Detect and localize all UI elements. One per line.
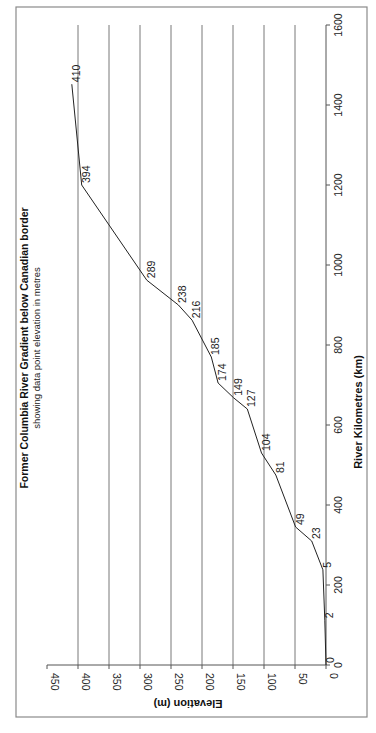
y-tick-label: 300 bbox=[142, 673, 154, 691]
chart: 050100150200250300350400450 020040060080… bbox=[0, 0, 376, 733]
data-point-label: 0 bbox=[324, 657, 336, 663]
y-tick-label: 400 bbox=[80, 673, 92, 691]
data-point-label: 289 bbox=[145, 261, 157, 279]
data-point-label: 174 bbox=[216, 363, 228, 381]
data-point-label: 410 bbox=[70, 65, 82, 83]
y-tick-label: 50 bbox=[297, 673, 309, 685]
data-point-label: 127 bbox=[245, 389, 257, 407]
data-point-label: 104 bbox=[260, 433, 272, 451]
data-point-label: 149 bbox=[232, 378, 244, 396]
data-point-label: 238 bbox=[176, 285, 188, 303]
data-point-label: 185 bbox=[209, 337, 221, 355]
data-point-label: 216 bbox=[190, 301, 202, 319]
data-point-label: 394 bbox=[80, 165, 92, 183]
data-point-label: 49 bbox=[294, 513, 306, 525]
x-tick-label: 200 bbox=[332, 576, 344, 594]
chart-subtitle: showing data point elevation in metres bbox=[31, 267, 42, 429]
data-point-label: 23 bbox=[310, 527, 322, 539]
y-axis-title: Elevation (m) bbox=[153, 698, 222, 710]
data-point-label: 81 bbox=[274, 461, 286, 473]
x-tick-label: 600 bbox=[332, 416, 344, 434]
y-tick-label: 150 bbox=[235, 673, 247, 691]
y-tick-label: 100 bbox=[266, 673, 278, 691]
y-tick-label: 450 bbox=[49, 673, 61, 691]
data-point-label: 5 bbox=[321, 562, 333, 568]
y-tick-label: 350 bbox=[111, 673, 123, 691]
x-tick-label: 800 bbox=[332, 336, 344, 354]
x-tick-label: 1200 bbox=[332, 173, 344, 197]
data-point-label: 2 bbox=[323, 612, 335, 618]
y-tick-label: 0 bbox=[328, 673, 340, 679]
x-tick-label: 1000 bbox=[332, 253, 344, 277]
y-tick-label: 250 bbox=[173, 673, 185, 691]
x-tick-label: 1400 bbox=[332, 93, 344, 117]
x-tick-label: 400 bbox=[332, 496, 344, 514]
x-axis-title: River Kilometres (km) bbox=[352, 355, 364, 469]
chart-frame bbox=[16, 7, 367, 717]
chart-title: Former Columbia River Gradient below Can… bbox=[18, 207, 30, 488]
y-tick-label: 200 bbox=[204, 673, 216, 691]
x-tick-label: 1600 bbox=[332, 13, 344, 37]
